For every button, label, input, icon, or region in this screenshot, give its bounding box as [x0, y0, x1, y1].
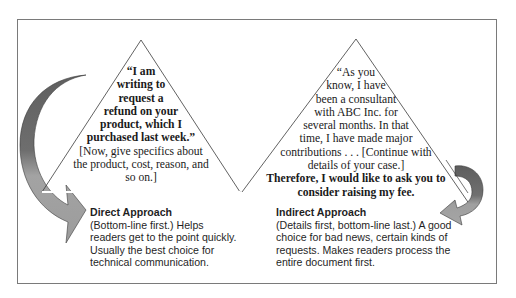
text-line: so on.]: [61, 171, 221, 184]
text-line: time, I have made major: [256, 132, 456, 145]
text-line: request a: [61, 92, 221, 105]
caption-line: (Bottom-line first.) Helps: [90, 219, 236, 232]
caption-line: entire document first.: [276, 256, 451, 269]
caption-line: choice for bad news, certain kinds of: [276, 231, 451, 244]
text-line: writing to: [61, 78, 221, 91]
text-line: “As you: [256, 66, 456, 79]
text-line: refund on your: [61, 105, 221, 118]
direct-approach-caption: Direct Approach (Bottom-line first.) Hel…: [90, 206, 236, 269]
text-line: consider raising my fee.: [256, 186, 456, 199]
text-line: with ABC Inc. for: [256, 106, 456, 119]
caption-line: Usually the best choice for: [90, 244, 236, 257]
text-line: Therefore, I would like to ask you to: [256, 172, 456, 185]
caption-line: requests. Makes readers process the: [276, 244, 451, 257]
caption-line: technical communication.: [90, 256, 236, 269]
text-line: been a consultant: [256, 93, 456, 106]
indirect-approach-caption: Indirect Approach (Details first, bottom…: [276, 206, 451, 269]
caption-line: readers get to the point quickly.: [90, 231, 236, 244]
text-line: the product, cost, reason, and: [61, 158, 221, 171]
text-line: [Now, give specifics about: [61, 145, 221, 158]
text-line: know, I have: [256, 79, 456, 92]
caption-line: (Details first, bottom-line last.) A goo…: [276, 219, 451, 232]
text-line: details of your case.]: [256, 159, 456, 172]
text-line: contributions . . . [Continue with: [256, 146, 456, 159]
text-line: several months. In that: [256, 119, 456, 132]
caption-title: Indirect Approach: [276, 206, 451, 219]
caption-title: Direct Approach: [90, 206, 236, 219]
text-line: purchased last week.”: [61, 131, 221, 144]
indirect-triangle-text: “As you know, I have been a consultant w…: [256, 66, 456, 199]
text-line: “I am: [61, 65, 221, 78]
direct-triangle-text: “I am writing to request a refund on you…: [61, 65, 221, 185]
text-line: product, which I: [61, 118, 221, 131]
